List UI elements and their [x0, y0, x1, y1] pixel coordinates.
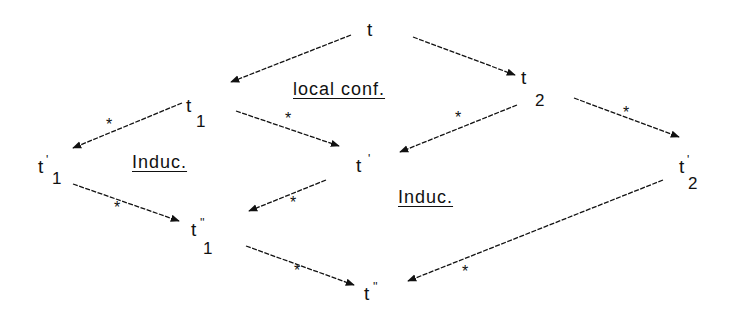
node-t2-prime-label: t	[679, 157, 684, 176]
star-label-t1prime-to-t1dprime: *	[114, 200, 120, 216]
star-label-t1-to-t1prime: *	[106, 117, 112, 133]
node-t-prime-mark: '	[368, 153, 370, 165]
node-t1-prime-label: t	[38, 157, 43, 176]
region-label-local-conf: local conf.	[293, 79, 385, 100]
arrow-t-to-t2	[413, 37, 515, 75]
diagram-canvas	[0, 0, 731, 320]
node-t1-double-prime-label: t	[191, 220, 196, 239]
region-label-induc-right: Induc.	[398, 187, 453, 208]
star-label-t1dprime-to-tdprime: *	[294, 263, 300, 279]
arrow-t-to-t1	[231, 35, 351, 82]
node-t1-label: t	[186, 96, 191, 115]
arrow-t1-to-t1prime	[73, 103, 182, 148]
star-label-t2-to-tprime: *	[455, 110, 461, 126]
star-label-t2-to-t2prime: *	[623, 105, 629, 121]
arrow-t1prime-to-t1dprime	[73, 184, 179, 221]
node-t2-prime-subscript: 2	[688, 175, 697, 192]
arrow-tprime-to-t1dprime	[249, 180, 326, 211]
node-t-double-prime-mark: ''	[373, 281, 378, 293]
star-label-t1-to-tprime: *	[285, 111, 291, 127]
node-t1-prime-mark: '	[46, 154, 48, 166]
region-label-induc-left: Induc.	[132, 152, 187, 173]
node-t-double-prime-label: t	[364, 284, 369, 303]
node-t-label: t	[367, 20, 372, 39]
node-t-prime-label: t	[356, 156, 361, 175]
node-t1-subscript: 1	[196, 113, 205, 130]
node-t1-double-prime-mark: ''	[200, 217, 205, 229]
node-t2-prime-mark: '	[687, 154, 689, 166]
node-t2-label: t	[521, 68, 526, 87]
node-t1-prime-subscript: 1	[52, 170, 61, 187]
star-label-t2prime-to-tdprime: *	[462, 264, 468, 280]
node-t2-subscript: 2	[535, 92, 544, 109]
star-label-tprime-to-t1dprime: *	[290, 195, 296, 211]
node-t1-double-prime-subscript: 1	[203, 240, 212, 257]
